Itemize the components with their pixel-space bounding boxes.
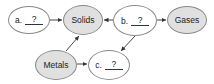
node-gases: Gases bbox=[167, 6, 207, 34]
node-b: b. ? bbox=[113, 5, 157, 36]
node-metals-label: Metals bbox=[43, 60, 68, 70]
node-a: a. ? bbox=[8, 6, 50, 34]
node-a-answer-blank: ? bbox=[25, 15, 43, 25]
node-gases-label: Gases bbox=[175, 15, 200, 25]
node-a-prefix: a. bbox=[15, 15, 22, 25]
node-c-answer-blank: ? bbox=[105, 60, 123, 70]
node-solids-label: Solids bbox=[71, 15, 94, 25]
node-c-prefix: c. bbox=[95, 60, 102, 70]
node-b-prefix: b. bbox=[121, 16, 128, 26]
node-b-answer-blank: ? bbox=[131, 16, 149, 26]
edge-b-to-c bbox=[121, 36, 135, 51]
node-c: c. ? bbox=[88, 50, 130, 80]
node-metals: Metals bbox=[35, 50, 77, 80]
node-solids: Solids bbox=[63, 5, 103, 35]
edge-metals-to-solids bbox=[66, 36, 79, 51]
